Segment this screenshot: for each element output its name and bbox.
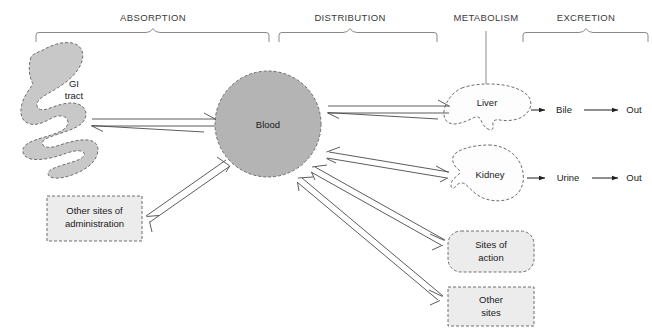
node-other-sites[interactable]: Other sites — [448, 287, 534, 326]
gi-tract-label-line2: tract — [65, 90, 84, 101]
pharmacokinetics-diagram: ABSORPTION DISTRIBUTION METABOLISM EXCRE… — [0, 0, 652, 328]
node-kidney[interactable]: Kidney — [451, 145, 523, 201]
bracket-absorption — [36, 29, 269, 43]
sites-of-action-label-line2: action — [478, 252, 503, 263]
phase-label-distribution: DISTRIBUTION — [314, 12, 385, 23]
edge-blood-to-kidney — [327, 147, 450, 182]
node-liver[interactable]: Liver — [444, 84, 531, 130]
other-sites-label-line1: Other — [479, 294, 503, 305]
edge-blood-to-sites-of-action — [311, 165, 445, 250]
gi-tract-label-line1: GI — [69, 78, 79, 89]
phase-label-metabolism: METABOLISM — [453, 12, 518, 23]
flow-label-out-bile: Out — [626, 104, 642, 115]
diagram-canvas: ABSORPTION DISTRIBUTION METABOLISM EXCRE… — [0, 0, 652, 328]
other-sites-label-line2: sites — [481, 307, 501, 318]
bracket-excretion — [523, 29, 648, 43]
node-other-sites-of-administration[interactable]: Other sites of administration — [47, 196, 142, 241]
liver-label: Liver — [477, 97, 498, 108]
edge-gi-tract-to-blood — [91, 113, 216, 132]
blood-label: Blood — [256, 119, 280, 130]
other-administration-label-line1: Other sites of — [66, 205, 123, 216]
other-administration-label-line2: administration — [65, 218, 124, 229]
flow-label-bile: Bile — [556, 104, 572, 115]
edge-other-administration-to-blood — [146, 157, 230, 232]
edge-blood-to-other-sites — [297, 177, 443, 305]
phase-header-group: ABSORPTION DISTRIBUTION METABOLISM EXCRE… — [36, 12, 648, 106]
edge-blood-to-liver — [327, 100, 450, 119]
phase-absorption: ABSORPTION — [36, 12, 269, 42]
node-gi-tract[interactable]: GI tract — [21, 43, 98, 179]
gi-tract-shape — [21, 43, 98, 179]
phase-distribution: DISTRIBUTION — [279, 12, 437, 42]
bracket-distribution — [279, 29, 437, 43]
phase-label-excretion: EXCRETION — [557, 12, 616, 23]
kidney-label: Kidney — [475, 169, 504, 180]
node-sites-of-action[interactable]: Sites of action — [448, 231, 534, 272]
node-blood[interactable]: Blood — [215, 71, 321, 177]
sites-of-action-label-line1: Sites of — [475, 239, 507, 250]
flow-label-urine: Urine — [557, 172, 580, 183]
phase-excretion: EXCRETION — [523, 12, 648, 42]
flow-label-out-urine: Out — [626, 172, 642, 183]
phase-label-absorption: ABSORPTION — [120, 12, 186, 23]
